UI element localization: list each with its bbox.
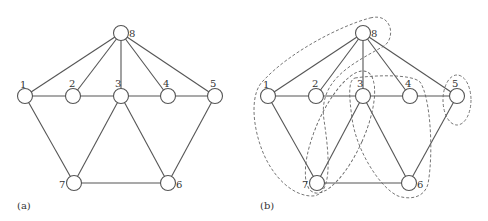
node-4 — [161, 89, 176, 104]
node-7 — [67, 176, 82, 191]
node-label-4: 4 — [405, 78, 411, 89]
node-8 — [114, 26, 129, 41]
node-6 — [161, 176, 176, 191]
labels-b: 8 1 2 3 4 5 7 6 — [263, 28, 458, 190]
node-label-8: 8 — [129, 28, 135, 39]
edges-b — [268, 33, 457, 183]
node-label-1: 1 — [263, 79, 269, 90]
node-label-5: 5 — [210, 78, 216, 89]
node-label-7: 7 — [59, 179, 65, 190]
node-3 — [114, 89, 129, 104]
node-label-4: 4 — [163, 78, 169, 89]
figure-a: 8 1 2 3 4 5 7 6 (a) — [17, 26, 223, 212]
node-2 — [309, 89, 324, 104]
node-label-7: 7 — [302, 179, 308, 190]
node-2 — [66, 89, 81, 104]
node-label-6: 6 — [176, 179, 182, 190]
caption-a: (a) — [17, 200, 31, 211]
node-label-3: 3 — [115, 78, 121, 89]
node-label-8: 8 — [371, 28, 377, 39]
node-label-3: 3 — [357, 78, 363, 89]
node-5 — [450, 89, 465, 104]
node-1 — [18, 89, 33, 104]
figure-b: 8 1 2 3 4 5 7 6 (b) — [254, 17, 471, 211]
node-label-6: 6 — [417, 179, 423, 190]
node-label-5: 5 — [452, 78, 458, 89]
graph-diagram: 8 1 2 3 4 5 7 6 (a) — [0, 0, 488, 221]
node-label-2: 2 — [69, 78, 75, 89]
caption-b: (b) — [260, 200, 274, 211]
node-7 — [310, 176, 325, 191]
node-8 — [356, 26, 371, 41]
node-5 — [208, 89, 223, 104]
node-label-2: 2 — [312, 78, 318, 89]
node-3 — [356, 89, 371, 104]
edges-a — [25, 33, 215, 183]
labels-a: 8 1 2 3 4 5 7 6 — [20, 28, 216, 190]
node-6 — [402, 176, 417, 191]
node-4 — [403, 89, 418, 104]
nodes-a — [18, 26, 223, 191]
node-label-1: 1 — [20, 79, 26, 90]
node-1 — [261, 89, 276, 104]
